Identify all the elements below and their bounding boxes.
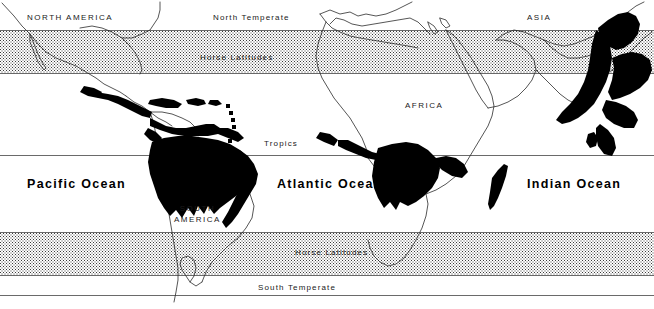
coastline-group (2, 2, 652, 302)
continent-label-north-america: NORTH AMERICA (27, 12, 113, 23)
ocean-label-pacific: Pacific Ocean (27, 178, 126, 191)
continent-label-south-america-line2: AMERICA (174, 214, 221, 225)
zone-label-tropics: Tropics (264, 140, 298, 148)
ocean-label-atlantic: Atlantic Ocean (277, 178, 383, 191)
continent-label-south-america-line1: SOUTH (174, 203, 221, 214)
continent-label-africa: AFRICA (405, 100, 443, 111)
world-distribution-map: North Temperate Horse Latitudes Tropics … (0, 0, 654, 309)
distribution-range-group (80, 12, 652, 228)
ocean-label-indian: Indian Ocean (527, 178, 621, 191)
map-vector-layer (0, 0, 654, 309)
zone-label-south-temperate: South Temperate (258, 284, 336, 292)
continent-label-asia: ASIA (527, 12, 551, 23)
zone-label-horse-latitudes-north: Horse Latitudes (200, 54, 273, 62)
zone-label-horse-latitudes-south: Horse Latitudes (295, 249, 368, 257)
continent-label-south-america: SOUTH AMERICA (174, 203, 221, 225)
zone-label-north-temperate: North Temperate (213, 14, 290, 22)
